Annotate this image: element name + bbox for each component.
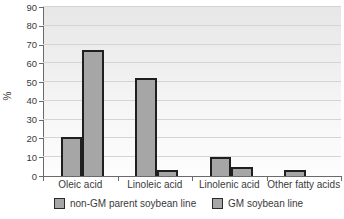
x-category-label-oleic-acid: Oleic acid xyxy=(43,179,118,191)
x-tick-0 xyxy=(43,177,44,181)
y-tick-90 xyxy=(39,7,43,8)
y-tick-80 xyxy=(39,26,43,27)
bar-non-gm-oleic-acid xyxy=(61,137,83,176)
legend-label-non-gm: non-GM parent soybean line xyxy=(70,198,196,209)
y-tick-label-50: 50 xyxy=(0,77,37,88)
y-tick-40 xyxy=(39,101,43,102)
y-tick-10 xyxy=(39,157,43,158)
y-axis: 0102030405060708090 xyxy=(0,7,37,176)
gridline-80 xyxy=(43,25,341,26)
fatty-acid-bar-chart: % 0102030405060708090 Oleic acidLinoleic… xyxy=(0,0,344,219)
y-tick-label-0: 0 xyxy=(0,171,37,182)
plot-area xyxy=(43,7,341,176)
y-tick-label-30: 30 xyxy=(0,114,37,125)
bar-non-gm-linolenic-acid xyxy=(210,157,232,176)
y-tick-30 xyxy=(39,120,43,121)
legend-item-non-gm: non-GM parent soybean line xyxy=(54,196,196,211)
x-tick-1 xyxy=(118,177,119,181)
bar-gm-linoleic-acid xyxy=(157,170,179,176)
y-tick-60 xyxy=(39,63,43,64)
y-tick-label-40: 40 xyxy=(0,95,37,106)
bar-gm-linolenic-acid xyxy=(231,167,253,176)
y-tick-label-10: 10 xyxy=(0,152,37,163)
y-tick-label-70: 70 xyxy=(0,39,37,50)
bar-non-gm-other-fatty-acids xyxy=(284,170,306,176)
y-tick-label-80: 80 xyxy=(0,20,37,31)
legend-label-gm: GM soybean line xyxy=(228,198,303,209)
y-tick-label-60: 60 xyxy=(0,58,37,69)
x-category-label-linoleic-acid: Linoleic acid xyxy=(118,179,193,191)
x-category-label-linolenic-acid: Linolenic acid xyxy=(192,179,267,191)
y-tick-50 xyxy=(39,82,43,83)
x-category-label-other-fatty-acids: Other fatty acids xyxy=(267,179,342,191)
gridline-70 xyxy=(43,44,341,45)
legend-item-gm: GM soybean line xyxy=(212,196,303,211)
bar-gm-oleic-acid xyxy=(82,50,104,176)
x-tick-2 xyxy=(192,177,193,181)
bar-non-gm-linoleic-acid xyxy=(135,78,157,176)
gridline-90 xyxy=(43,6,341,7)
y-tick-70 xyxy=(39,45,43,46)
y-tick-20 xyxy=(39,138,43,139)
y-tick-label-20: 20 xyxy=(0,133,37,144)
legend: non-GM parent soybean line GM soybean li… xyxy=(0,196,344,214)
x-tick-3 xyxy=(267,177,268,181)
legend-swatch-gm-icon xyxy=(212,198,223,209)
y-tick-label-90: 90 xyxy=(0,2,37,13)
legend-swatch-non-gm-icon xyxy=(54,198,65,209)
y-axis-line xyxy=(43,6,44,177)
x-tick-4 xyxy=(341,177,342,181)
